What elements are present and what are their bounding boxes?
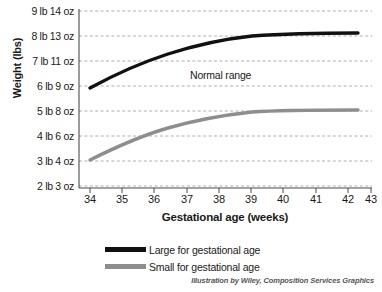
legend-swatch-icon [105,247,146,252]
x-axis-title: Gestational age (weeks) [78,211,372,223]
annotation-normal-range: Normal range [190,69,251,81]
x-tick-label: 40 [268,193,298,205]
legend-label: Large for gestational age [149,244,260,256]
legend-item-small-for-gestational-age: Small for gestational age [105,258,260,275]
legend-swatch-icon [105,264,146,269]
gridlines-horizontal [79,11,372,186]
x-tick-label: 41 [301,193,331,205]
x-tick-label: 39 [236,193,266,205]
chart-legend: Large for gestational age Small for gest… [105,241,260,275]
x-tick-label: 35 [107,193,137,205]
x-tick-label: 37 [172,193,202,205]
x-tick-label: 36 [139,193,169,205]
x-tick-label: 43 [356,193,382,205]
x-tick-label: 34 [75,193,105,205]
illustration-credit: Illustration by Wiley, Composition Servi… [191,276,374,285]
legend-item-large-for-gestational-age: Large for gestational age [105,241,260,258]
legend-label: Small for gestational age [149,261,260,273]
series-line-small-for-gestational-age [90,110,358,160]
x-tick-label: 38 [204,193,234,205]
